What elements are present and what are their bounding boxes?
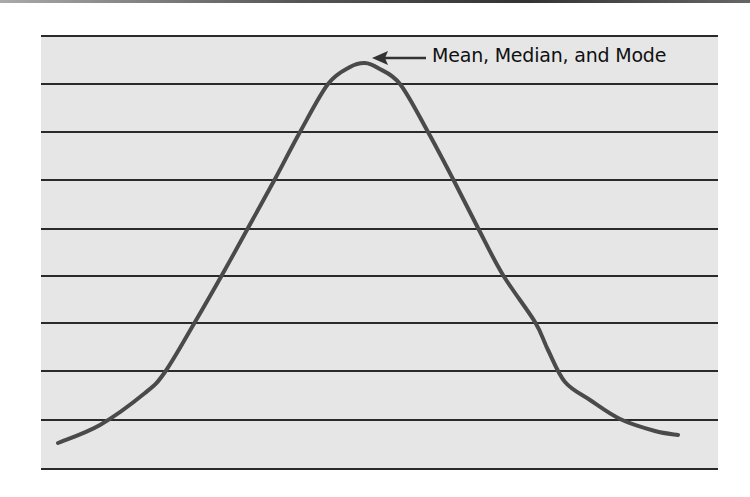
annotation-label: Mean, Median, and Mode (432, 44, 666, 66)
plot-background (41, 36, 718, 469)
bell-curve-chart (0, 0, 750, 497)
